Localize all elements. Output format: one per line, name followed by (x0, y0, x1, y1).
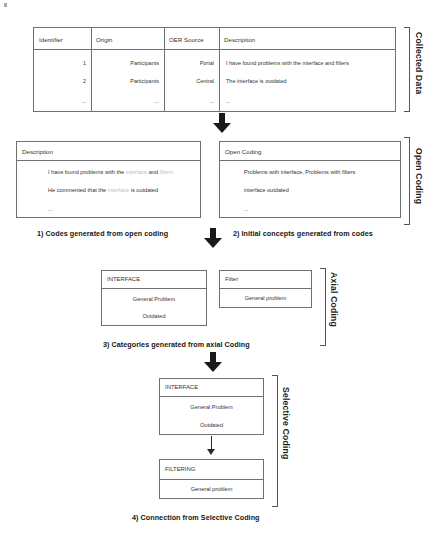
selective-card-interface: INTERFACE General Problem Outdated (159, 378, 264, 435)
scan-artifact (4, 3, 7, 7)
card-title-interface: INTERFACE (107, 276, 140, 282)
table-row: ... (164, 98, 214, 104)
table-row: ... (34, 98, 86, 104)
table-row: 1 (34, 60, 86, 66)
table-row: Portal (164, 60, 214, 66)
open-code-line-2: interface outdated (244, 187, 289, 193)
open-code-line-ellipsis: ... (244, 206, 249, 212)
bracket-collected-data (404, 27, 410, 112)
card-title-rule (102, 288, 206, 289)
panel-title-rule (220, 160, 400, 161)
card-title-filtering: FILTERING (165, 466, 195, 472)
selective-card-filtering: FILTERING General problem (159, 459, 264, 499)
table-row: The interface is outdated (226, 78, 287, 84)
table-header-description: Description (224, 36, 255, 43)
panel-title-description: Description (22, 148, 53, 155)
caption-step-3: 3) Categories generated from axial Codin… (103, 340, 250, 349)
table-row: Participants (91, 60, 159, 66)
open-coding-description-panel: Description I have found problems with t… (16, 141, 201, 218)
caption-step-1: 1) Codes generated from open coding (37, 229, 168, 238)
text-run: and (147, 169, 159, 175)
card-title-rule (160, 479, 263, 480)
table-header-identifier: Identifier (39, 36, 63, 43)
stage-label-open-coding: Open Coding (414, 148, 424, 204)
diagram-canvas: Identifier Origin OER Source Description… (0, 0, 445, 545)
axial-card-filter: Filter General problem (219, 270, 312, 308)
collected-data-table: Identifier Origin OER Source Description… (33, 27, 396, 112)
caption-step-2: 2) Initial concepts generated from codes (233, 229, 373, 238)
panel-title-rule (17, 160, 200, 161)
stage-label-collected-data: Collected Data (414, 32, 424, 95)
text-run: is outdated (129, 187, 158, 193)
axial-card-interface: INTERFACE General Problem Outdated (101, 270, 207, 326)
card-item: General Problem (102, 296, 206, 302)
card-item: General problem (160, 486, 263, 492)
highlighted-code-filters: filters (160, 169, 173, 175)
table-header-rule (34, 49, 395, 50)
panel-title-open-coding: Open Coding (225, 148, 261, 155)
table-row: I have found problems with the interface… (226, 60, 349, 66)
highlighted-code-interface: interface (108, 187, 129, 193)
card-item: General problem (220, 295, 311, 301)
open-coding-codes-panel: Open Coding Problems with interface, Pro… (219, 141, 401, 218)
card-item: Outdated (160, 422, 263, 428)
highlighted-code-interface: interface (126, 169, 147, 175)
open-code-line-1: Problems with interface, Problems with f… (244, 169, 355, 175)
stage-label-axial-coding: Axial Coding (329, 272, 339, 327)
stage-label-selective-coding: Selective Coding (281, 387, 291, 459)
text-run: I have found problems with the (48, 169, 126, 175)
table-row: Central (164, 78, 214, 84)
description-line-1: I have found problems with the interface… (48, 169, 173, 175)
caption-step-4: 4) Connection from Selective Coding (132, 513, 260, 522)
card-title-interface: INTERFACE (165, 384, 198, 390)
text-run: He commented that the (48, 187, 108, 193)
table-col-divider-3 (219, 28, 220, 111)
bracket-open-coding (404, 137, 410, 225)
table-row: ... (226, 98, 231, 104)
table-row: ... (91, 98, 159, 104)
card-title-rule (220, 288, 311, 289)
table-header-oer-source: OER Source (169, 36, 204, 43)
card-item: General Problem (160, 404, 263, 410)
card-title-rule (160, 396, 263, 397)
card-item: Outdated (102, 313, 206, 319)
table-row: 2 (34, 78, 86, 84)
card-title-filter: Filter (225, 276, 238, 282)
bracket-selective-coding (272, 375, 278, 507)
description-line-ellipsis: ... (48, 206, 53, 212)
table-header-origin: Origin (96, 36, 113, 43)
table-row: Participants (91, 78, 159, 84)
description-line-2: He commented that the interface is outda… (48, 187, 158, 193)
bracket-axial-coding (320, 268, 326, 346)
